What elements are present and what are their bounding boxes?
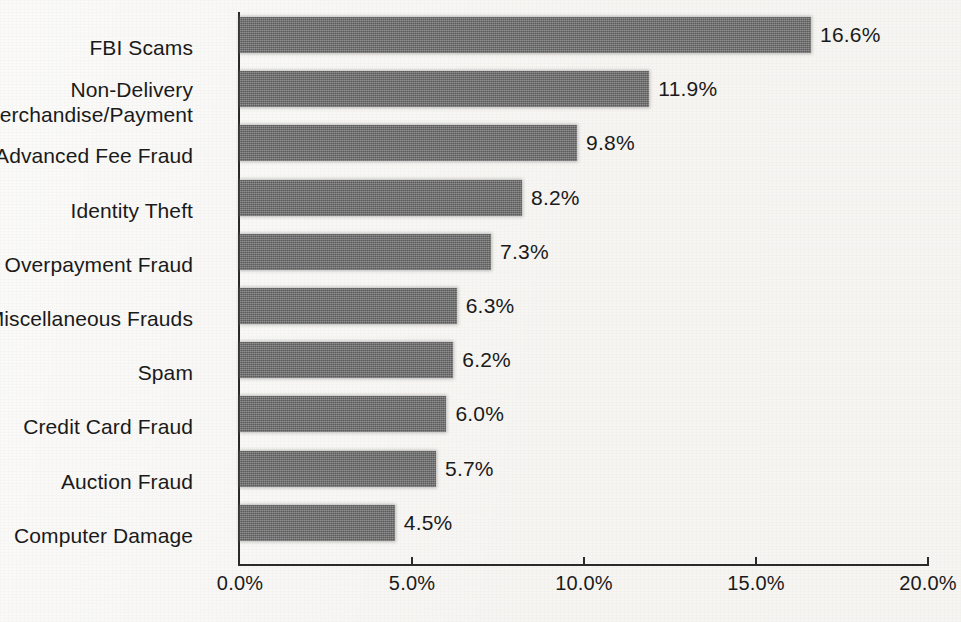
bar [240, 180, 522, 216]
x-axis-tick-label: 0.0% [217, 572, 263, 595]
plot-area: FBI Scams16.6%Non-Delivery Merchandise/P… [240, 12, 928, 565]
bar-row: Identity Theft8.2% [240, 180, 928, 216]
category-label: Non-Delivery Merchandise/Payment [0, 77, 193, 127]
bar-value-label: 7.3% [500, 240, 549, 264]
bar-row: Spam6.2% [240, 342, 928, 378]
x-axis-tick [755, 557, 757, 566]
category-label: Credit Card Fraud [0, 414, 193, 439]
bar-value-label: 11.9% [658, 77, 717, 101]
x-axis-tick-label: 10.0% [555, 572, 613, 595]
bar-row: Computer Damage4.5% [240, 505, 928, 541]
bar-row: FBI Scams16.6% [240, 17, 928, 53]
category-label: Computer Damage [0, 523, 193, 548]
x-axis-tick-label: 15.0% [727, 572, 785, 595]
category-label: Spam [0, 360, 193, 385]
x-axis-tick-label: 20.0% [899, 572, 957, 595]
bar [240, 17, 811, 53]
bar-value-label: 9.8% [586, 131, 635, 155]
bar-value-label: 16.6% [820, 23, 881, 47]
bar-row: Overpayment Fraud7.3% [240, 234, 928, 270]
bar [240, 288, 457, 324]
category-label: FBI Scams [0, 35, 193, 60]
x-axis-tick [927, 557, 929, 566]
bar-row: Non-Delivery Merchandise/Payment11.9% [240, 71, 928, 107]
bar-row: Auction Fraud5.7% [240, 451, 928, 487]
bar-chart: FBI Scams16.6%Non-Delivery Merchandise/P… [0, 0, 961, 622]
category-label: Auction Fraud [0, 469, 193, 494]
bar [240, 396, 446, 432]
x-axis-tick [583, 557, 585, 566]
bar-value-label: 8.2% [531, 186, 580, 210]
bar [240, 505, 395, 541]
x-axis-tick [411, 557, 413, 566]
bar [240, 125, 577, 161]
bar [240, 342, 453, 378]
x-axis-tick-label: 5.0% [389, 572, 435, 595]
bar-value-label: 4.5% [404, 511, 453, 535]
category-label: Overpayment Fraud [0, 252, 193, 277]
bar-row: Credit Card Fraud6.0% [240, 396, 928, 432]
category-label: Advanced Fee Fraud [0, 143, 193, 168]
bar-row: Miscellaneous Frauds6.3% [240, 288, 928, 324]
bar [240, 71, 649, 107]
category-label: Identity Theft [0, 198, 193, 223]
bar-value-label: 6.0% [455, 402, 504, 426]
bar [240, 451, 436, 487]
category-label: Miscellaneous Frauds [0, 306, 193, 331]
bar-value-label: 5.7% [445, 457, 494, 481]
bar [240, 234, 491, 270]
bar-row: Advanced Fee Fraud9.8% [240, 125, 928, 161]
bar-value-label: 6.3% [466, 294, 515, 318]
bar-value-label: 6.2% [462, 348, 511, 372]
